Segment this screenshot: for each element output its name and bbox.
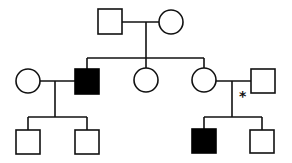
individual-III-4-male [250,130,274,153]
individual-II-5-male [251,69,275,93]
individual-I-1-male [98,9,122,34]
individual-I-2-female [159,10,183,34]
individual-III-2-male [75,130,99,154]
pedigree-svg: * [0,0,292,163]
individual-II-1-female [16,69,40,93]
individual-III-3-male-affected [192,129,216,153]
individual-II-2-male-affected [75,69,99,94]
individual-III-1-male [16,130,40,154]
asterisk-annotation: * [239,88,247,104]
individual-II-3-female [134,68,158,92]
individual-II-4-female [192,68,216,92]
pedigree-chart: * [0,0,292,163]
